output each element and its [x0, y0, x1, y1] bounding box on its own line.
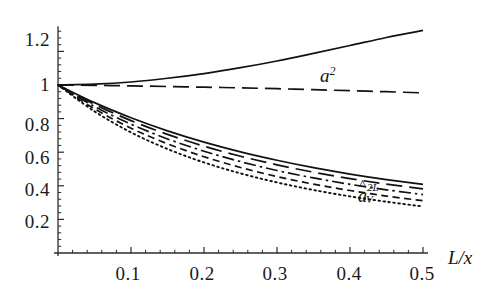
curve-label-hat-glyph: ^: [359, 177, 366, 194]
curve-label-a-hat-v-2l: ^a2LV: [358, 186, 379, 209]
y-tick-label-1: 1: [8, 74, 50, 96]
chart-plot-area: 1.2 1 0.8 0.6 0.4 0.2 0.1 0.2 0.3 0.4 0.…: [0, 0, 498, 305]
x-tick-label-0-2: 0.2: [179, 263, 225, 285]
y-tick-label-0-2: 0.2: [8, 211, 50, 233]
curve-a-2: [58, 30, 423, 85]
curve-label-a-hat-subscript: V: [366, 194, 378, 205]
curve-label-a-hat-scripts: 2LV: [367, 187, 379, 209]
y-tick-label-0-6: 0.6: [8, 147, 50, 169]
curve-label-a-hat-exponent: 2L: [367, 182, 379, 193]
curve-label-a-squared-exponent: 2: [330, 64, 336, 78]
y-axis-ticks: [58, 31, 64, 246]
x-tick-label-0-4: 0.4: [326, 263, 372, 285]
y-tick-label-0-4: 0.4: [8, 179, 50, 201]
x-tick-label-0-1: 0.1: [105, 263, 151, 285]
curve-a-2-long-dashed-companion: [58, 85, 423, 93]
x-axis-label: L/x: [448, 247, 472, 269]
curve-av2l-solid: [58, 85, 423, 184]
y-tick-label-0-8: 0.8: [8, 114, 50, 136]
x-axis-ticks: [73, 247, 423, 253]
x-tick-label-0-5: 0.5: [399, 263, 445, 285]
y-tick-label-1-2: 1.2: [8, 29, 50, 51]
x-tick-label-0-3: 0.3: [252, 263, 298, 285]
chart-svg: [0, 0, 498, 305]
curve-label-a-squared: a2: [320, 64, 336, 87]
curve-av2l-dash-dot: [58, 85, 423, 195]
curve-label-a-squared-base: a: [320, 65, 330, 86]
